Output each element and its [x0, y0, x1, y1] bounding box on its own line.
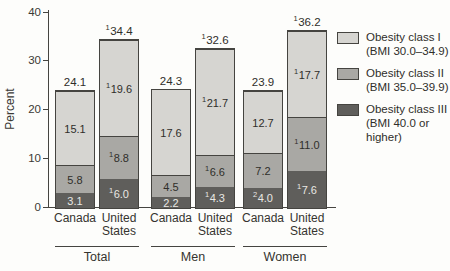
- segment-value-label: 5.8: [67, 175, 82, 185]
- segment-value-label: 119.6: [106, 84, 132, 94]
- bar-total-canada: 3.15.815.124.1: [55, 90, 95, 209]
- y-tick-label: 30: [12, 54, 41, 67]
- legend-series-bmi: (BMI 35.0–39.9): [366, 80, 448, 94]
- group-label-men: Men: [151, 250, 235, 264]
- y-tick-label: 10: [12, 152, 41, 165]
- bar-total-label: 134.4: [105, 25, 132, 37]
- bar-total-label: 24.1: [64, 76, 86, 88]
- segment-obesity-class-i: 12.7: [244, 91, 282, 153]
- bar-total-label: 24.3: [160, 75, 182, 87]
- x-category-label: United States: [89, 212, 149, 238]
- segment-value-label: 117.7: [294, 70, 320, 80]
- y-tick-mark: [43, 109, 48, 110]
- legend-entry-obesity-class-i: Obesity class I(BMI 30.0–34.9): [337, 30, 448, 58]
- legend-entry-obesity-class-iii: Obesity class III(BMI 40.0 or higher): [337, 102, 450, 144]
- legend-entry-obesity-class-ii: Obesity class II(BMI 35.0–39.9): [337, 66, 448, 94]
- y-tick-label: 40: [12, 6, 41, 19]
- bar-women-canada: 24.07.212.723.9: [243, 90, 283, 209]
- segment-obesity-class-ii: 111.0: [288, 117, 326, 171]
- legend-text: Obesity class III(BMI 40.0 or higher): [366, 102, 450, 144]
- segment-obesity-class-i: 17.6: [152, 89, 190, 175]
- segment-value-label: 111.0: [294, 140, 319, 150]
- segment-obesity-class-ii: 16.6: [196, 155, 234, 187]
- segment-value-label: 16.0: [109, 189, 129, 199]
- segment-obesity-class-ii: 18.8: [100, 136, 138, 179]
- segment-obesity-class-iii: 24.0: [244, 188, 282, 208]
- group-underline: [151, 246, 235, 247]
- segment-obesity-class-ii: 5.8: [56, 165, 94, 193]
- group-underline: [55, 246, 139, 247]
- legend-series-name: Obesity class II: [366, 66, 448, 80]
- segment-value-label: 12.7: [252, 118, 273, 128]
- segment-obesity-class-iii: 14.3: [196, 187, 234, 208]
- segment-value-label: 15.1: [64, 124, 85, 134]
- x-category-label: United States: [277, 212, 337, 238]
- bar-women-united-states: 17.6111.0117.7136.2: [287, 30, 327, 209]
- y-axis-line: [48, 10, 49, 208]
- bar-total-label: 132.6: [201, 34, 228, 46]
- obesity-stacked-bar-chart: Percent Obesity class I(BMI 30.0–34.9)Ob…: [0, 0, 450, 271]
- group-label-total: Total: [55, 250, 139, 264]
- y-tick-mark: [43, 60, 48, 61]
- segment-obesity-class-i: 119.6: [100, 40, 138, 136]
- y-tick-mark: [43, 12, 48, 13]
- segment-obesity-class-iii: 3.1: [56, 193, 94, 208]
- legend-series-name: Obesity class I: [366, 30, 448, 44]
- legend-series-bmi: (BMI 30.0–34.9): [366, 44, 448, 58]
- segment-value-label: 121.7: [202, 98, 228, 108]
- y-tick-label: 20: [12, 103, 41, 116]
- group-underline: [243, 246, 327, 247]
- legend-swatch: [337, 104, 359, 116]
- segment-obesity-class-i: 121.7: [196, 49, 234, 155]
- legend-series-bmi: (BMI 40.0 or higher): [366, 116, 450, 144]
- segment-value-label: 17.6: [160, 128, 181, 138]
- bar-total-united-states: 16.018.8119.6134.4: [99, 39, 139, 209]
- segment-value-label: 14.3: [205, 193, 225, 203]
- segment-value-label: 24.0: [253, 193, 273, 203]
- legend-text: Obesity class I(BMI 30.0–34.9): [366, 30, 448, 58]
- y-tick-mark: [43, 207, 48, 208]
- segment-value-label: 2.2: [163, 198, 178, 208]
- bar-total-label: 23.9: [252, 76, 274, 88]
- segment-value-label: 3.1: [67, 196, 82, 206]
- y-tick-label: 0: [12, 201, 41, 214]
- segment-obesity-class-i: 117.7: [288, 31, 326, 117]
- segment-value-label: 18.8: [109, 153, 129, 163]
- bar-men-united-states: 14.316.6121.7132.6: [195, 48, 235, 209]
- segment-obesity-class-iii: 17.6: [288, 171, 326, 208]
- legend-swatch: [337, 68, 359, 80]
- group-label-women: Women: [243, 250, 327, 264]
- segment-obesity-class-iii: 16.0: [100, 179, 138, 208]
- bar-men-canada: 2.24.517.624.3: [151, 89, 191, 209]
- segment-value-label: 17.6: [297, 185, 317, 195]
- segment-obesity-class-iii: 2.2: [152, 197, 190, 208]
- segment-obesity-class-i: 15.1: [56, 91, 94, 165]
- segment-obesity-class-ii: 4.5: [152, 175, 190, 197]
- segment-value-label: 4.5: [163, 182, 178, 192]
- y-tick-mark: [43, 158, 48, 159]
- segment-value-label: 7.2: [255, 166, 270, 176]
- segment-obesity-class-ii: 7.2: [244, 153, 282, 188]
- legend-swatch: [337, 32, 359, 44]
- bar-total-label: 136.2: [293, 16, 320, 28]
- legend-series-name: Obesity class III: [366, 102, 450, 116]
- segment-value-label: 16.6: [205, 167, 225, 177]
- legend-text: Obesity class II(BMI 35.0–39.9): [366, 66, 448, 94]
